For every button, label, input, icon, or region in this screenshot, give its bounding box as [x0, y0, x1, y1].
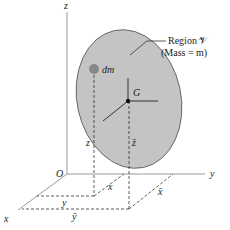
z-axis-label: z: [63, 0, 68, 11]
dm-label: dm: [102, 64, 114, 75]
x-axis: [18, 174, 67, 210]
g-x-label: x̄: [157, 186, 163, 197]
x-axis-label: x: [3, 213, 9, 224]
dm-y-label: y: [61, 197, 67, 208]
center-of-mass-diagram: z y x O dm G Region 𝒱 (Mass = m) z x y z…: [0, 0, 230, 230]
mass-element-dm: [89, 64, 99, 74]
centroid-point: [126, 99, 130, 103]
g-z-label: z̄: [131, 137, 136, 148]
region-label: Region 𝒱: [168, 35, 209, 46]
dm-z-label: z: [85, 137, 90, 148]
g-y-label: ȳ: [71, 211, 77, 222]
y-axis-label: y: [209, 168, 215, 179]
g-x-dash: [129, 174, 173, 209]
centroid-label: G: [133, 87, 140, 98]
mass-label: (Mass = m): [161, 47, 207, 59]
origin-label: O: [56, 168, 63, 179]
dm-x-label: x: [107, 181, 113, 192]
